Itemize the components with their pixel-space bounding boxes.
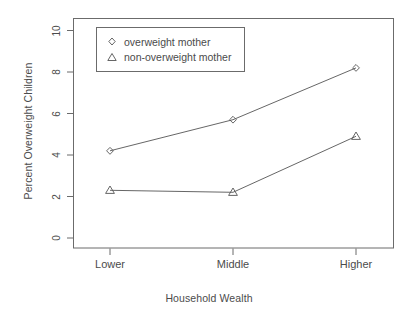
chart-figure: 0 2 4 6 8 10 Lower Middle Higher overwei… [0,0,418,319]
series-line-overweight-mother [110,68,356,151]
y-axis-title: Percent Overweight Children [22,16,36,246]
data-point-marker [229,188,238,195]
series-line-non-overweight-mother [110,136,356,192]
x-axis-title: Household Wealth [0,292,418,304]
data-point-marker [352,132,361,139]
legend-box [97,28,245,72]
x-tick-label-higher: Higher [321,258,391,270]
plot-frame [74,19,394,249]
y-axis-ticks [67,31,74,239]
x-axis-ticks [110,249,356,256]
legend-label-non-overweight-mother: non-overweight mother [124,51,231,63]
diamond-marker-icon [109,38,115,45]
y-tick-label-2: 2 [51,187,63,207]
series-overweight-mother [107,65,360,155]
series-non-overweight-mother [106,132,361,195]
y-tick-label-4: 4 [51,145,63,165]
data-point-marker [107,147,114,154]
y-tick-label-10: 10 [51,21,63,41]
y-tick-label-8: 8 [51,62,63,82]
y-tick-label-6: 6 [51,104,63,124]
y-tick-label-0: 0 [51,228,63,248]
x-tick-label-middle: Middle [198,258,268,270]
legend-label-overweight-mother: overweight mother [124,36,210,48]
triangle-marker-icon [108,54,116,61]
data-point-marker [106,186,115,193]
x-tick-label-lower: Lower [75,258,145,270]
